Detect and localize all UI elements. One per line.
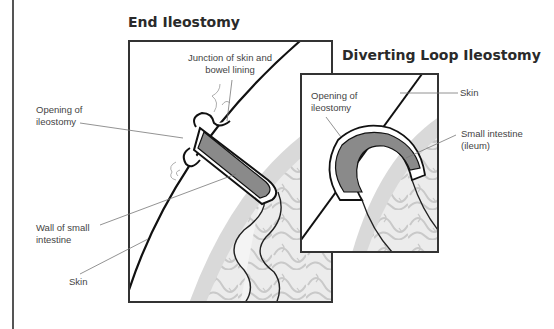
label-junction: Junction of skin and bowel lining xyxy=(188,52,272,76)
label-skin-end: Skin xyxy=(69,276,87,288)
end-ileostomy-title: End Ileostomy xyxy=(128,14,240,30)
label-opening-end: Opening of ileostomy xyxy=(36,104,82,128)
label-wall: Wall of small intestine xyxy=(36,222,90,246)
label-skin-loop: Skin xyxy=(460,87,478,99)
label-opening-loop: Opening of ileostomy xyxy=(311,90,357,114)
loop-ileostomy-title: Diverting Loop Ileostomy xyxy=(342,47,541,63)
label-intestine: Small intestine (ileum) xyxy=(461,128,523,152)
